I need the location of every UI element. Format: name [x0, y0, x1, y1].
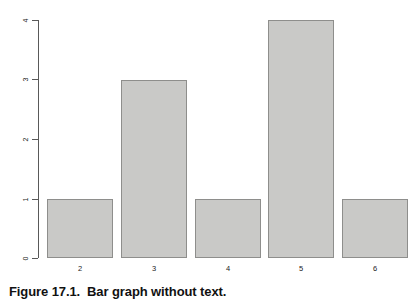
bar-category-3[interactable] [121, 80, 187, 259]
y-axis-tick-label-4-text: 4 [23, 19, 30, 23]
bar-chart-plot: 0 1 2 3 4 2 3 4 5 6 [0, 0, 419, 278]
y-axis-tick-label-2: 2 [0, 136, 28, 143]
y-axis-tick-0 [32, 258, 38, 259]
y-axis-tick-1 [32, 199, 38, 200]
y-axis-tick-2 [32, 139, 38, 140]
y-axis-tick-label-0: 0 [0, 255, 28, 262]
figure-caption: Figure 17.1.Bar graph without text. [9, 284, 226, 299]
bar-category-5[interactable] [268, 20, 334, 258]
bar-category-4[interactable] [195, 199, 261, 259]
y-axis-tick-3 [32, 79, 38, 80]
y-axis-tick-label-0-text: 0 [23, 257, 30, 261]
x-axis-tick-label-5: 5 [268, 265, 334, 273]
y-axis-tick-label-1: 1 [0, 196, 28, 203]
x-axis-tick-label-3: 3 [121, 265, 187, 273]
y-axis-tick-label-1-text: 1 [23, 198, 30, 202]
x-axis-tick-label-2: 2 [47, 265, 113, 273]
x-axis-tick-label-6: 6 [342, 265, 408, 273]
y-axis-tick-label-3-text: 3 [23, 78, 30, 82]
y-axis-line [38, 20, 39, 258]
figure-caption-text: Bar graph without text. [87, 284, 226, 299]
x-axis-tick-label-4: 4 [195, 265, 261, 273]
bar-category-6[interactable] [342, 199, 408, 259]
y-axis-tick-label-3: 3 [0, 76, 28, 83]
y-axis-tick-4 [32, 20, 38, 21]
figure-caption-label: Figure 17.1. [9, 284, 80, 299]
y-axis-tick-label-2-text: 2 [23, 138, 30, 142]
figure-container: 0 1 2 3 4 2 3 4 5 6 Figure 17.1.Bar gr [0, 0, 419, 308]
bar-category-2[interactable] [47, 199, 113, 259]
y-axis-tick-label-4: 4 [0, 17, 28, 24]
